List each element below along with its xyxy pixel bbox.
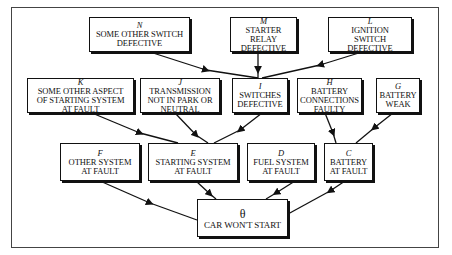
node-label: SOME OTHER SWITCH DEFECTIVE	[96, 30, 183, 48]
node-label: SWITCHES DEFECTIVE	[237, 91, 282, 109]
node-c-battery-at-fault: C BATTERY AT FAULT	[324, 143, 373, 181]
node-label: FUEL SYSTEM AT FAULT	[253, 158, 309, 176]
node-label: STARTER RELAY DEFECTIVE	[241, 26, 286, 53]
edge-f-theta	[100, 181, 150, 203]
node-k-other-starting-aspect: K SOME OTHER ASPECT OF STARTING SYSTEM A…	[27, 78, 134, 113]
node-theta-car-wont-start: θ CAR WON'T START	[197, 199, 288, 237]
edge-g-c	[374, 113, 393, 128]
node-label: TRANSMISSION NOT IN PARK OR NEUTRAL	[148, 87, 213, 114]
node-f-other-system-at-fault: F OTHER SYSTEM AT FAULT	[60, 143, 140, 181]
node-n-some-other-switch-defective: N SOME OTHER SWITCH DEFECTIVE	[89, 17, 190, 52]
node-label: BATTERY CONNECTIONS FAULTY	[300, 87, 359, 114]
node-m-starter-relay-defective: M STARTER RELAY DEFECTIVE	[230, 17, 297, 52]
node-label: SOME OTHER ASPECT OF STARTING SYSTEM AT …	[37, 87, 125, 114]
node-l-ignition-switch-defective: L IGNITION SWITCH DEFECTIVE	[328, 17, 412, 52]
node-label: STARTING SYSTEM AT FAULT	[156, 158, 231, 176]
node-label: BATTERY WEAK	[379, 91, 416, 109]
node-i-switches-defective: I SWITCHES DEFECTIVE	[232, 78, 288, 113]
node-label: OTHER SYSTEM AT FAULT	[69, 158, 132, 176]
edge-j-e	[175, 113, 196, 135]
edge-e-theta	[196, 181, 210, 194]
node-e-starting-system-at-fault: E STARTING SYSTEM AT FAULT	[148, 143, 238, 181]
edge-c-theta	[330, 181, 345, 191]
edge-k-e	[92, 113, 140, 133]
edge-l-i	[320, 52, 362, 65]
edge-i-e	[240, 113, 262, 130]
node-label: BATTERY AT FAULT	[330, 158, 368, 176]
node-label: IGNITION SWITCH DEFECTIVE	[347, 26, 392, 53]
edge-h-c	[325, 113, 333, 133]
node-letter: θ	[240, 207, 246, 221]
edge-d-theta	[276, 181, 295, 193]
node-j-transmission-not-in-park: J TRANSMISSION NOT IN PARK OR NEUTRAL	[140, 78, 220, 113]
node-h-battery-connections-faulty: H BATTERY CONNECTIONS FAULTY	[297, 78, 362, 113]
edge-n-i	[150, 52, 206, 70]
node-g-battery-weak: G BATTERY WEAK	[376, 78, 420, 113]
node-d-fuel-system-at-fault: D FUEL SYSTEM AT FAULT	[247, 143, 315, 181]
node-label: CAR WON'T START	[204, 221, 281, 230]
